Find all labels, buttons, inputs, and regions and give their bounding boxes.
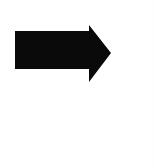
image-canvas: [0, 0, 154, 168]
right-arrow-icon: [0, 0, 154, 168]
canvas-background: [0, 0, 154, 168]
